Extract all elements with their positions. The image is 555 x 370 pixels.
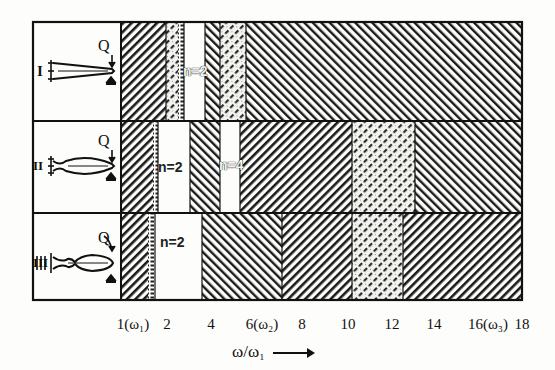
band xyxy=(246,22,522,121)
row-label-III: III xyxy=(33,255,48,271)
x-tick: 2 xyxy=(163,317,171,332)
mode-label-row-II-n4: n=4 xyxy=(219,158,244,172)
band xyxy=(122,22,166,121)
x-tick: 8 xyxy=(298,317,306,332)
row-I-bands xyxy=(122,22,522,121)
band xyxy=(148,213,155,300)
band xyxy=(240,121,352,213)
x-tick: 4 xyxy=(207,317,215,332)
band xyxy=(122,213,148,300)
x-tick: 1(ω₁) xyxy=(117,317,150,332)
band xyxy=(220,22,246,121)
row-label-I: I xyxy=(37,63,43,80)
band xyxy=(190,121,220,213)
x-tick: 10 xyxy=(341,317,356,332)
band xyxy=(403,213,522,300)
band-blank xyxy=(155,213,202,300)
specimen-II-icon xyxy=(48,150,116,181)
stability-diagram xyxy=(0,0,555,370)
x-tick: 16(ω₃) xyxy=(468,317,508,332)
x-tick: 18 xyxy=(515,317,530,332)
mode-label-row-III: n=2 xyxy=(160,235,185,249)
band xyxy=(282,213,352,300)
row-III-bands xyxy=(122,213,522,300)
load-label-II: Q xyxy=(98,133,110,148)
band xyxy=(415,121,522,213)
band xyxy=(352,121,415,213)
band xyxy=(352,213,403,300)
arrow-right-icon xyxy=(273,352,313,354)
load-label-I: Q xyxy=(98,38,110,53)
row-label-II: II xyxy=(33,158,43,174)
x-tick: 6(ω₂) xyxy=(246,317,279,332)
x-axis-label: ω/ω₁ xyxy=(232,342,313,362)
x-tick: 14 xyxy=(427,317,442,332)
mode-label-row-I: n=2 xyxy=(183,64,208,78)
band xyxy=(166,22,178,121)
band xyxy=(122,121,153,213)
band xyxy=(202,213,282,300)
x-axis-label-text: ω/ω₁ xyxy=(232,342,265,361)
mode-label-row-II-n2: n=2 xyxy=(158,160,183,174)
load-label-III: Q xyxy=(98,230,110,245)
x-tick: 12 xyxy=(385,317,400,332)
specimen-I-icon xyxy=(48,55,116,85)
